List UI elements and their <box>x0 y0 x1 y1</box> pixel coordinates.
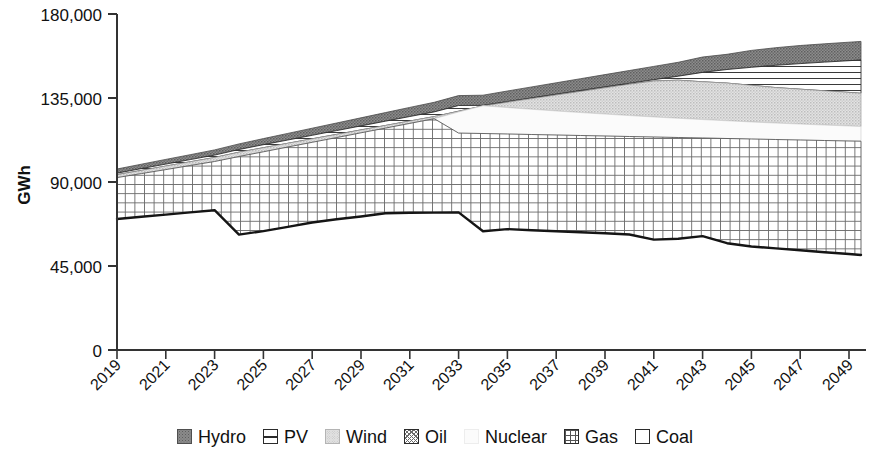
pv-swatch-icon <box>263 429 278 444</box>
x-tick-labels: 2019 2021 2023 2025 2027 2029 2031 2033 … <box>87 356 856 393</box>
x-tick-label-2037: 2037 <box>526 356 563 393</box>
x-tick-label-2021: 2021 <box>136 356 173 393</box>
chart-canvas: 180,000 135,000 90,000 45,000 0 GWh 2019… <box>0 0 870 452</box>
legend-item-gas[interactable]: Gas <box>564 428 618 446</box>
y-tick-label-90000: 90,000 <box>50 174 102 193</box>
x-tick-label-2047: 2047 <box>770 356 807 393</box>
oil-swatch-icon <box>404 429 419 444</box>
x-tick-label-2027: 2027 <box>282 356 319 393</box>
legend-label-pv: PV <box>284 428 308 446</box>
legend-item-pv[interactable]: PV <box>263 428 308 446</box>
coal-swatch-icon <box>635 429 650 444</box>
nuclear-swatch-icon <box>464 429 479 444</box>
chart-legend: Hydro PV Wind Oil Nuclear Gas Coal <box>0 421 870 452</box>
x-tick-label-2035: 2035 <box>477 356 514 393</box>
legend-item-nuclear[interactable]: Nuclear <box>464 428 547 446</box>
legend-label-coal: Coal <box>656 428 693 446</box>
y-tick-label-135000: 135,000 <box>41 90 102 109</box>
y-tick-label-180000: 180,000 <box>41 6 102 25</box>
x-tick-label-2029: 2029 <box>331 356 368 393</box>
hydro-swatch-icon <box>177 429 192 444</box>
x-tick-label-2025: 2025 <box>233 356 270 393</box>
stacked-area-chart: 180,000 135,000 90,000 45,000 0 GWh 2019… <box>0 0 870 452</box>
x-tick-label-2033: 2033 <box>429 356 466 393</box>
y-axis-title: GWh <box>15 165 34 205</box>
y-tick-labels: 180,000 135,000 90,000 45,000 0 <box>41 6 102 361</box>
x-tick-label-2049: 2049 <box>819 356 856 393</box>
x-tick-label-2041: 2041 <box>624 356 661 393</box>
legend-item-oil[interactable]: Oil <box>404 428 447 446</box>
legend-label-gas: Gas <box>585 428 618 446</box>
x-tick-label-2031: 2031 <box>380 356 417 393</box>
legend-label-nuclear: Nuclear <box>485 428 547 446</box>
x-tick-label-2023: 2023 <box>185 356 222 393</box>
y-tick-label-0: 0 <box>93 342 102 361</box>
gas-swatch-icon <box>564 429 579 444</box>
y-tick-marks <box>108 14 117 350</box>
x-tick-label-2045: 2045 <box>721 356 758 393</box>
x-tick-marks <box>117 350 849 359</box>
legend-item-hydro[interactable]: Hydro <box>177 428 246 446</box>
legend-label-hydro: Hydro <box>198 428 246 446</box>
x-tick-label-2043: 2043 <box>673 356 710 393</box>
legend-label-wind: Wind <box>346 428 387 446</box>
y-tick-label-45000: 45,000 <box>50 258 102 277</box>
x-tick-label-2039: 2039 <box>575 356 612 393</box>
legend-item-wind[interactable]: Wind <box>325 428 387 446</box>
plot-area <box>117 41 861 350</box>
x-tick-label-2019: 2019 <box>87 356 124 393</box>
wind-swatch-icon <box>325 429 340 444</box>
legend-label-oil: Oil <box>425 428 447 446</box>
legend-item-coal[interactable]: Coal <box>635 428 693 446</box>
